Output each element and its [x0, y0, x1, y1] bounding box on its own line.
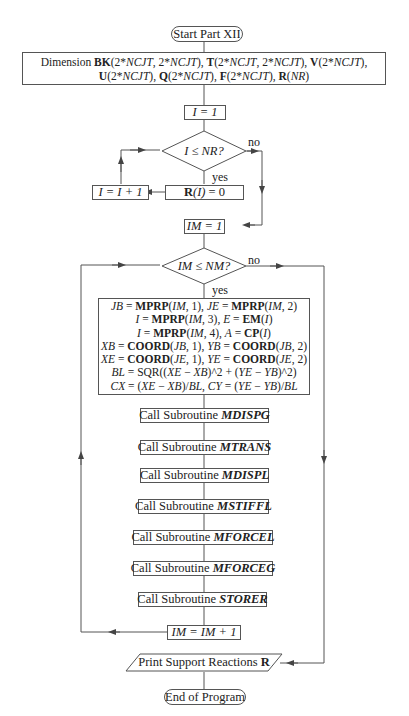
member-line: JB = MPRP(IM, 1), JE = MPRP(IM, 2) — [111, 300, 297, 313]
member-properties-block: JB = MPRP(IM, 1), JE = MPRP(IM, 2) I = M… — [98, 298, 310, 395]
call-mstiffl-box: Call Subroutine MSTIFFL — [138, 499, 269, 514]
set-r-box: R(I) = 0 — [165, 185, 244, 200]
increment-im-box: IM = IM + 1 — [167, 625, 241, 640]
call-mdispg-box: Call Subroutine MDISPG — [140, 408, 269, 423]
member-line: XB = COORD(JB, 1), YB = COORD(JB, 2) — [101, 340, 307, 353]
member-line: I = MPRP(IM, 3), E = EM(I) — [135, 313, 272, 326]
member-line: CX = (XE − XB)/BL, CY = (YE − YB)/BL — [110, 380, 297, 393]
dimension-line-2: U(2*NCJT), Q(2*NCJT), F(2*NCJT), R(NR) — [99, 69, 309, 83]
print-reactions-io: Print Support Reactions R — [126, 654, 282, 671]
decision-im-yes-label: yes — [212, 283, 228, 298]
member-line: BL = SQR((XE − XB)^2 + (YE − YB)^2) — [111, 366, 296, 379]
call-mtrans-box: Call Subroutine MTRANS — [140, 440, 269, 455]
call-mdispl-box: Call Subroutine MDISPL — [140, 468, 269, 483]
increment-i-box: I = I + 1 — [92, 185, 149, 200]
member-line: I = MPRP(IM, 4), A = CP(I) — [137, 327, 271, 340]
call-mforceg-box: Call Subroutine MFORCEG — [133, 561, 273, 576]
decision-im-no-label: no — [248, 253, 260, 268]
member-line: XE = COORD(JE, 1), YE = COORD(JE, 2) — [101, 353, 307, 366]
dimension-box: Dimension BK(2*NCJT, 2*NCJT), T(2*NCJT, … — [22, 52, 386, 85]
start-label: Start Part XII — [173, 27, 240, 42]
init-im-box: IM = 1 — [184, 219, 225, 234]
decision-im-label: IM ≤ NM? — [166, 259, 242, 274]
end-label: End of Program — [165, 690, 245, 705]
decision-i-label: I ≤ NR? — [170, 144, 238, 159]
dimension-line-1: Dimension BK(2*NCJT, 2*NCJT), T(2*NCJT, … — [41, 55, 368, 69]
start-terminal: Start Part XII — [171, 26, 243, 42]
call-storer-box: Call Subroutine STORER — [138, 592, 267, 607]
end-terminal: End of Program — [164, 689, 246, 705]
call-mforcel-box: Call Subroutine MFORCEL — [133, 530, 273, 545]
decision-i-no-label: no — [248, 135, 260, 150]
decision-i-yes-label: yes — [212, 170, 228, 185]
init-i-box: I = 1 — [184, 105, 226, 120]
